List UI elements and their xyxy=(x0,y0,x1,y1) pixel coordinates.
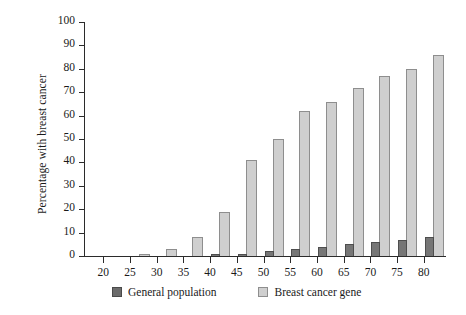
x-axis-tick xyxy=(237,257,238,263)
y-axis-tick-label: 40 xyxy=(43,154,75,166)
x-axis-tick xyxy=(210,257,211,263)
y-axis-tick: 0 xyxy=(79,256,84,257)
bar-breast-cancer-gene xyxy=(192,237,203,256)
bar-general-population xyxy=(425,237,434,256)
x-axis-tick xyxy=(317,257,318,263)
bar-breast-cancer-gene xyxy=(353,88,364,256)
y-axis-tick: 30 xyxy=(79,186,84,187)
y-axis-tick-label: 0 xyxy=(43,248,75,260)
bar-breast-cancer-gene xyxy=(273,139,284,256)
bar-general-population xyxy=(291,249,300,256)
y-axis-tick: 40 xyxy=(79,162,84,163)
bar-breast-cancer-gene xyxy=(406,69,417,256)
x-axis-tick xyxy=(424,257,425,263)
legend-label: Breast cancer gene xyxy=(274,286,361,298)
bar-general-population xyxy=(211,254,220,256)
y-axis-tick-label: 70 xyxy=(43,84,75,96)
bar-breast-cancer-gene xyxy=(379,76,390,256)
x-axis-tick xyxy=(370,257,371,263)
x-axis-tick xyxy=(397,257,398,263)
bar-general-population xyxy=(238,254,247,256)
x-axis-tick xyxy=(183,257,184,263)
x-axis-tick xyxy=(344,257,345,263)
legend-swatch-icon xyxy=(112,287,122,297)
legend-item: Breast cancer gene xyxy=(258,286,361,298)
bar-general-population xyxy=(265,251,274,256)
legend-swatch-icon xyxy=(258,287,268,297)
x-axis-line xyxy=(84,256,446,257)
x-axis-tick xyxy=(157,257,158,263)
bar-breast-cancer-gene xyxy=(246,160,257,256)
bar-breast-cancer-gene xyxy=(166,249,177,256)
bar-breast-cancer-gene xyxy=(139,254,150,256)
x-axis-tick xyxy=(290,257,291,263)
y-axis-tick-label: 20 xyxy=(43,201,75,213)
legend-label: General population xyxy=(128,286,216,298)
y-axis-tick: 60 xyxy=(79,116,84,117)
y-axis-tick-label: 10 xyxy=(43,225,75,237)
bar-general-population xyxy=(371,242,380,256)
y-axis-tick-label: 60 xyxy=(43,108,75,120)
y-axis-tick-label: 80 xyxy=(43,61,75,73)
bar-breast-cancer-gene xyxy=(326,102,337,256)
y-axis-tick: 80 xyxy=(79,69,84,70)
x-axis-tick-label: 80 xyxy=(404,266,444,278)
bar-breast-cancer-gene xyxy=(433,55,444,256)
y-axis-tick: 10 xyxy=(79,233,84,234)
legend-item: General population xyxy=(112,286,216,298)
bar-chart-figure: Percentage with breast cancer 0102030405… xyxy=(0,0,466,315)
y-axis-tick: 20 xyxy=(79,209,84,210)
bar-breast-cancer-gene xyxy=(219,212,230,256)
bar-breast-cancer-gene xyxy=(299,111,310,256)
y-axis-tick: 70 xyxy=(79,92,84,93)
y-axis-tick: 90 xyxy=(79,45,84,46)
y-axis-line xyxy=(84,22,85,257)
bar-general-population xyxy=(398,240,407,256)
y-axis-tick-label: 100 xyxy=(43,14,75,26)
bar-general-population xyxy=(318,247,327,256)
plot-area: 0102030405060708090100 20253035404550556… xyxy=(84,22,446,256)
x-axis-tick xyxy=(103,257,104,263)
y-axis-tick-label: 50 xyxy=(43,131,75,143)
y-axis-tick-label: 90 xyxy=(43,37,75,49)
bar-general-population xyxy=(345,244,354,256)
chart-legend: General populationBreast cancer gene xyxy=(112,286,361,298)
y-axis-tick-label: 30 xyxy=(43,178,75,190)
x-axis-tick xyxy=(130,257,131,263)
x-axis-tick xyxy=(264,257,265,263)
y-axis-tick: 50 xyxy=(79,139,84,140)
y-axis-tick: 100 xyxy=(79,22,84,23)
